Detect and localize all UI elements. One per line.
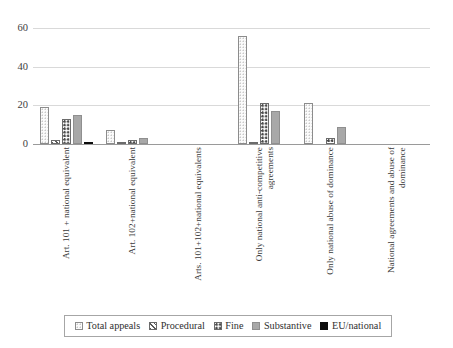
- legend-swatch-icon: [75, 322, 83, 330]
- bar-substantive: [73, 115, 82, 144]
- bar-substantive: [139, 138, 148, 144]
- bar-procedural: [117, 142, 126, 144]
- x-axis-tick-label: National agreements and abuse of dominan…: [364, 147, 430, 305]
- bar-procedural: [51, 140, 60, 144]
- bar-group: [298, 28, 364, 144]
- x-axis-tick-label: Art. 102+national equivalent: [99, 147, 165, 305]
- legend-item[interactable]: EU/national: [320, 321, 381, 331]
- bar-fine: [260, 103, 269, 144]
- bars-layer: [33, 28, 430, 144]
- bar-procedural: [249, 142, 258, 144]
- legend-swatch-icon: [252, 322, 260, 330]
- chart-legend: Total appealsProceduralFineSubstantiveEU…: [64, 315, 392, 337]
- bar-total-appeals: [40, 107, 49, 144]
- y-axis-tick-label: 40: [0, 62, 28, 73]
- bar-group: [165, 28, 231, 144]
- x-axis-category-labels: Art. 101 + national equivalentArt. 102+n…: [33, 147, 430, 305]
- bar-group: [364, 28, 430, 144]
- legend-label: Total appeals: [86, 321, 140, 331]
- bar-chart: 0204060 Art. 101 + national equivalentAr…: [0, 0, 453, 348]
- bar-fine: [326, 138, 335, 144]
- legend-swatch-icon: [320, 322, 328, 330]
- x-axis-tick-label-text: Only national abuse of dominance: [325, 147, 336, 275]
- bar-total-appeals: [238, 36, 247, 144]
- bar-group: [99, 28, 165, 144]
- bar-fine: [128, 140, 137, 144]
- legend-swatch-icon: [149, 322, 157, 330]
- x-axis-tick-label: Arts. 101+102+national equivalents: [165, 147, 231, 305]
- bar-substantive: [271, 111, 280, 144]
- y-axis-tick-label: 0: [0, 139, 28, 150]
- bar-substantive: [337, 127, 346, 144]
- axis-baseline: [33, 144, 430, 145]
- x-axis-tick-label-text: Only national anti-competitive agreement…: [254, 147, 275, 261]
- x-axis-tick-label: Only national abuse of dominance: [298, 147, 364, 305]
- x-axis-tick-label: Only national anti-competitive agreement…: [232, 147, 298, 305]
- legend-label: Substantive: [264, 321, 312, 331]
- x-axis-tick-label-text: Arts. 101+102+national equivalents: [193, 147, 204, 281]
- bar-fine: [62, 119, 71, 144]
- legend-item[interactable]: Substantive: [252, 321, 311, 331]
- legend-label: Fine: [225, 321, 243, 331]
- legend-label: EU/national: [332, 321, 381, 331]
- legend-item[interactable]: Total appeals: [75, 321, 140, 331]
- legend-label: Procedural: [161, 321, 205, 331]
- bar-total-appeals: [304, 103, 313, 144]
- bar-total-appeals: [106, 130, 115, 144]
- y-axis-tick-label: 20: [0, 100, 28, 111]
- x-axis-tick-label-text: Art. 102+national equivalent: [127, 147, 138, 254]
- x-axis-tick-label: Art. 101 + national equivalent: [33, 147, 99, 305]
- x-axis-tick-label-text: Art. 101 + national equivalent: [61, 147, 72, 259]
- legend-item[interactable]: Fine: [214, 321, 244, 331]
- bar-group: [33, 28, 99, 144]
- legend-item[interactable]: Procedural: [149, 321, 205, 331]
- bar-eu-national: [84, 142, 93, 144]
- x-axis-tick-label-text: National agreements and abuse of dominan…: [386, 147, 407, 273]
- y-axis-tick-label: 60: [0, 23, 28, 34]
- bar-group: [232, 28, 298, 144]
- legend-swatch-icon: [214, 322, 222, 330]
